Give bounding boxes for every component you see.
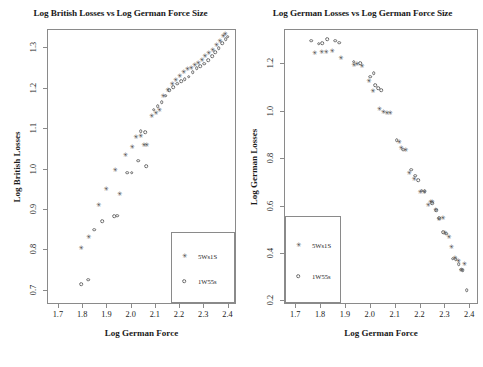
legend-marker-icon — [182, 254, 186, 258]
data-point — [325, 37, 329, 41]
data-point — [369, 75, 373, 79]
data-point — [226, 35, 230, 39]
x-axis-tick — [345, 304, 346, 308]
data-point — [137, 159, 141, 163]
data-point — [454, 257, 458, 261]
data-point — [171, 85, 175, 89]
data-point — [370, 89, 374, 93]
legend-label: 1W55s — [198, 278, 217, 285]
panel-right-x-axis-title: Log German Force — [344, 328, 417, 338]
data-point — [214, 50, 218, 54]
panel-left-y-axis-title: Log British Losses — [12, 131, 22, 202]
data-point — [156, 104, 160, 108]
data-point — [183, 78, 187, 82]
data-point — [104, 187, 108, 191]
data-point — [144, 143, 148, 147]
data-point — [152, 108, 156, 112]
legend-label: 5Ws1S — [198, 252, 217, 259]
data-point — [100, 219, 104, 223]
data-point — [217, 46, 221, 50]
x-axis-tick-label: 2.2 — [174, 310, 184, 319]
x-axis-tick — [131, 304, 132, 308]
x-axis-tick-label: 2.4 — [222, 310, 232, 319]
legend-marker-icon — [296, 243, 300, 247]
data-point — [117, 192, 121, 196]
y-axis-tick-label: 0.4 — [266, 248, 275, 258]
data-point — [96, 203, 100, 207]
y-axis-tick-label: 1.2 — [29, 82, 38, 92]
data-point — [195, 67, 199, 71]
x-axis-tick-label: 1.8 — [77, 310, 87, 319]
x-axis-tick-label: 2.3 — [198, 310, 208, 319]
y-axis-tick-label: 1.0 — [266, 106, 275, 116]
data-point — [133, 135, 137, 139]
data-point — [430, 202, 434, 206]
y-axis-tick-label: 0.7 — [29, 285, 38, 295]
data-point — [309, 39, 313, 43]
y-axis-tick-label: 1.1 — [29, 123, 38, 133]
data-point — [164, 94, 168, 98]
y-axis-tick — [280, 63, 284, 64]
legend-label: 5Ws1S — [312, 241, 331, 248]
data-point — [372, 72, 376, 76]
data-point — [138, 134, 142, 138]
data-point — [445, 232, 449, 236]
y-axis-tick — [43, 209, 47, 210]
data-point — [352, 60, 356, 64]
data-point — [168, 88, 172, 92]
data-point — [323, 50, 327, 54]
x-axis-tick — [58, 304, 59, 308]
data-point — [115, 214, 119, 218]
data-point — [434, 208, 438, 212]
y-axis-tick-label: 0.2 — [266, 295, 275, 305]
legend-entry: 5Ws1S — [286, 240, 340, 250]
data-point — [187, 75, 191, 79]
legend-entry: 1W55s — [172, 276, 234, 286]
data-point — [416, 178, 420, 182]
data-point — [123, 153, 127, 157]
data-point — [413, 174, 417, 178]
data-point — [401, 148, 405, 152]
x-axis-tick-label: 2.1 — [150, 310, 160, 319]
data-point — [92, 228, 96, 232]
data-point — [143, 130, 147, 134]
y-axis-tick-label: 0.8 — [266, 153, 275, 163]
y-axis-tick — [43, 88, 47, 89]
x-axis-tick-label: 2.3 — [439, 310, 449, 319]
legend-entry: 1W55s — [286, 271, 340, 281]
data-point — [87, 278, 91, 282]
y-axis-tick-label: 1.0 — [29, 163, 38, 173]
y-axis-tick — [43, 290, 47, 291]
y-axis-tick — [280, 206, 284, 207]
legend-entry: 5Ws1S — [172, 251, 234, 261]
x-axis-tick — [203, 304, 204, 308]
x-axis-tick-label: 1.9 — [340, 310, 350, 319]
x-axis-tick-label: 1.8 — [315, 310, 325, 319]
y-axis-tick — [280, 300, 284, 301]
x-axis-tick — [82, 304, 83, 308]
data-point — [388, 111, 392, 115]
data-point — [144, 164, 148, 168]
data-point — [366, 78, 370, 82]
legend-marker-icon — [182, 279, 186, 283]
x-axis-tick — [469, 304, 470, 308]
scatter-figure: Log British Losses vs Log German Force S… — [0, 0, 483, 367]
x-axis-tick — [420, 304, 421, 308]
data-point — [139, 129, 143, 133]
panel-left: Log British Losses vs Log German Force S… — [0, 0, 241, 367]
data-point — [113, 167, 117, 171]
x-axis-tick-label: 1.7 — [290, 310, 300, 319]
data-point — [462, 262, 466, 266]
x-axis-tick — [155, 304, 156, 308]
legend-label: 1W55s — [312, 273, 331, 280]
x-axis-tick-label: 1.7 — [53, 310, 63, 319]
x-axis-tick — [370, 304, 371, 308]
data-point — [160, 100, 164, 104]
data-point — [125, 171, 129, 175]
x-axis-tick — [295, 304, 296, 308]
x-axis-tick — [106, 304, 107, 308]
data-point — [210, 54, 214, 58]
x-axis-tick — [228, 304, 229, 308]
data-point — [438, 216, 442, 220]
data-point — [457, 263, 461, 267]
